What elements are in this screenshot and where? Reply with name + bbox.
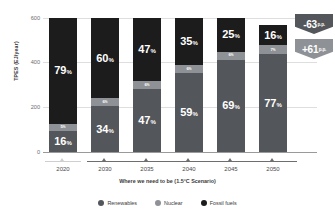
x-label-2020: 2020 xyxy=(43,166,83,172)
segment-value-fossil-2050: 16% xyxy=(264,30,282,41)
segment-nuclear-2035[interactable]: 6% xyxy=(133,81,161,89)
segment-nuclear-2045[interactable]: 6% xyxy=(217,52,245,60)
segment-fossil-2035[interactable]: 47% xyxy=(133,18,161,81)
segment-value-fossil-2035: 47% xyxy=(138,44,156,55)
segment-fossil-2050[interactable]: 16% xyxy=(259,25,287,45)
segment-renewables-2020[interactable]: 16% xyxy=(49,131,77,152)
badge-fossil-change-unit: p.p. xyxy=(317,22,324,27)
segment-renewables-2045[interactable]: 69% xyxy=(217,60,245,152)
segment-renewables-2030[interactable]: 34% xyxy=(91,106,119,152)
x-axis-title: Where we need to be (1.5°C Scenario) xyxy=(0,178,335,184)
segment-value-fossil-2045: 25% xyxy=(222,29,240,40)
stacked-bar-chart: TPES (EJ/year) 600 400 200 0 79% 5% 16% … xyxy=(0,0,335,220)
y-tick-0: 0 xyxy=(18,149,40,155)
segment-fossil-2045[interactable]: 25% xyxy=(217,18,245,52)
segment-fossil-2040[interactable]: 35% xyxy=(175,18,203,65)
segment-nuclear-2020[interactable]: 5% xyxy=(49,124,77,131)
segment-renewables-2035[interactable]: 47% xyxy=(133,89,161,152)
segment-nuclear-2030[interactable]: 6% xyxy=(91,98,119,106)
x-label-2040: 2040 xyxy=(169,166,209,172)
bar-2040[interactable]: 35% 6% 59% xyxy=(175,18,203,152)
bar-2035[interactable]: 47% 6% 47% xyxy=(133,18,161,152)
legend-item-fossil-fuels[interactable]: Fossil fuels xyxy=(201,200,237,206)
segment-value-nuclear-2030: 6% xyxy=(102,100,107,104)
legend-item-renewables[interactable]: Renewables xyxy=(98,200,137,206)
segment-value-renewables-2040: 59% xyxy=(180,107,198,118)
segment-value-nuclear-2040: 6% xyxy=(186,67,191,71)
badge-renewables-change-unit: p.p. xyxy=(319,47,326,52)
x-tick-marker-2040 xyxy=(186,158,190,161)
y-tick-600: 600 xyxy=(18,15,40,21)
segment-value-renewables-2030: 34% xyxy=(96,124,114,135)
legend-item-nuclear[interactable]: Nuclear xyxy=(155,200,183,206)
segment-value-renewables-2035: 47% xyxy=(138,115,156,126)
x-tick-marker-2030 xyxy=(102,158,106,161)
x-tick-marker-2050 xyxy=(270,158,274,161)
legend-label-renewables: Renewables xyxy=(107,200,137,206)
segment-renewables-2040[interactable]: 59% xyxy=(175,73,203,152)
segment-nuclear-2050[interactable]: 7% xyxy=(259,45,287,54)
badge-renewables-change[interactable]: +61p.p. xyxy=(295,39,333,59)
x-tick-marker-2035 xyxy=(144,158,148,161)
segment-fossil-2030[interactable]: 60% xyxy=(91,18,119,98)
segment-renewables-2050[interactable]: 77% xyxy=(259,54,287,152)
bar-2020[interactable]: 79% 5% 16% xyxy=(49,18,77,152)
x-axis-rule-historic xyxy=(45,161,81,162)
bar-2030[interactable]: 60% 6% 34% xyxy=(91,18,119,152)
segment-value-fossil-2020: 79% xyxy=(54,65,72,76)
y-tick-200: 200 xyxy=(18,104,40,110)
legend-swatch-nuclear-icon xyxy=(155,200,161,206)
segment-value-renewables-2050: 77% xyxy=(264,98,282,109)
segment-value-nuclear-2050: 7% xyxy=(270,48,275,52)
segment-value-nuclear-2035: 6% xyxy=(144,83,149,87)
bar-2045[interactable]: 25% 6% 69% xyxy=(217,18,245,152)
x-label-2050: 2050 xyxy=(253,166,293,172)
badge-fossil-change[interactable]: -63p.p. xyxy=(295,14,333,34)
y-tick-400: 400 xyxy=(18,59,40,65)
segment-value-nuclear-2045: 6% xyxy=(228,53,233,57)
x-label-2035: 2035 xyxy=(127,166,167,172)
segment-nuclear-2040[interactable]: 6% xyxy=(175,65,203,73)
plot-area: 79% 5% 16% 60% 6% 34% 47% xyxy=(43,0,317,220)
bar-2050[interactable]: 16% 7% 77% xyxy=(259,25,287,152)
segment-value-fossil-2040: 35% xyxy=(180,36,198,47)
legend-label-fossil-fuels: Fossil fuels xyxy=(210,200,237,206)
segment-value-nuclear-2020: 5% xyxy=(60,125,65,129)
x-axis-rule-scenario xyxy=(87,161,297,162)
segment-value-renewables-2020: 16% xyxy=(54,136,72,147)
segment-fossil-2020[interactable]: 79% xyxy=(49,18,77,124)
badge-renewables-change-value: +61 xyxy=(302,44,318,55)
legend-swatch-fossil-fuels-icon xyxy=(201,200,207,206)
segment-value-fossil-2030: 60% xyxy=(96,53,114,64)
segment-value-renewables-2045: 69% xyxy=(222,100,240,111)
badge-fossil-change-value: -63 xyxy=(303,19,317,30)
x-tick-marker-2020 xyxy=(60,158,64,161)
x-label-2045: 2045 xyxy=(211,166,251,172)
legend: Renewables Nuclear Fossil fuels xyxy=(0,200,335,206)
legend-swatch-renewables-icon xyxy=(98,200,104,206)
x-tick-marker-2045 xyxy=(228,158,232,161)
x-label-2030: 2030 xyxy=(85,166,125,172)
legend-label-nuclear: Nuclear xyxy=(164,200,183,206)
